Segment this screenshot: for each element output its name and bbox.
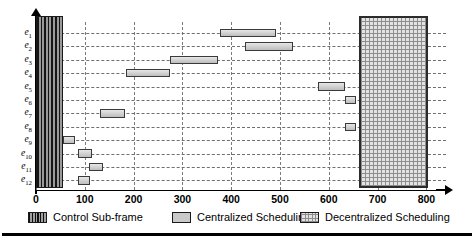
y-tick-subscript: 6 — [29, 99, 32, 106]
y-tick-label-e5: e5 — [24, 81, 32, 93]
task-bar-e11 — [89, 163, 103, 172]
chart-legend: Control Sub-frameCentralized SchedulingD… — [0, 207, 476, 227]
y-tick-subscript: 4 — [29, 72, 32, 79]
legend-label-dec: Decentralized Scheduling — [325, 211, 450, 223]
y-tick-subscript: 3 — [29, 59, 32, 66]
legend-item-cent: Centralized Scheduling — [172, 211, 310, 223]
task-bar-e2 — [245, 42, 293, 51]
task-bar-e3 — [170, 56, 218, 65]
legend-swatch-cent — [172, 212, 191, 223]
task-bar-e4 — [126, 69, 170, 78]
x-tick-label-0: 0 — [33, 193, 39, 205]
y-tick-subscript: 9 — [29, 139, 32, 146]
y-tick-label-e10: e10 — [21, 148, 32, 160]
x-tick-label-700: 700 — [369, 193, 387, 205]
legend-swatch-dec — [300, 212, 319, 223]
task-bar-e5 — [318, 82, 345, 91]
y-tick-subscript: 7 — [29, 112, 32, 119]
y-tick-label-e4: e4 — [24, 67, 32, 79]
legend-item-dec: Decentralized Scheduling — [300, 211, 450, 223]
task-bar-e9 — [63, 136, 75, 145]
plot-area — [36, 22, 436, 190]
y-tick-subscript: 1 — [29, 32, 32, 39]
x-axis-arrowhead-icon — [445, 185, 453, 195]
legend-label-ctrl: Control Sub-frame — [53, 211, 143, 223]
x-tick-label-400: 400 — [222, 193, 240, 205]
legend-swatch-ctrl — [28, 212, 47, 223]
y-tick-subscript: 8 — [29, 126, 32, 133]
task-bar-e6 — [345, 96, 355, 105]
legend-item-ctrl: Control Sub-frame — [28, 211, 143, 223]
legend-label-cent: Centralized Scheduling — [197, 211, 310, 223]
x-tick-label-300: 300 — [174, 193, 192, 205]
gantt-chart-figure: e1e2e3e4e5e6e7e8e9e10e11e12 010020030040… — [0, 0, 476, 243]
task-bar-e12 — [78, 176, 90, 185]
y-tick-label-e1: e1 — [24, 27, 32, 39]
x-tick-label-200: 200 — [125, 193, 143, 205]
x-tick-label-800: 800 — [418, 193, 436, 205]
x-tick-label-600: 600 — [320, 193, 338, 205]
control-subframe-block — [36, 16, 63, 188]
y-tick-label-e11: e11 — [21, 161, 32, 173]
task-bar-e10 — [78, 149, 92, 158]
decentralized-scheduling-block — [359, 16, 429, 188]
y-tick-label-e7: e7 — [24, 107, 32, 119]
y-tick-subscript: 12 — [25, 179, 32, 186]
y-tick-subscript: 5 — [29, 86, 32, 93]
y-tick-label-e6: e6 — [24, 94, 32, 106]
x-tick-label-100: 100 — [76, 193, 94, 205]
y-tick-label-e9: e9 — [24, 134, 32, 146]
y-tick-label-e12: e12 — [21, 174, 32, 186]
y-tick-subscript: 2 — [29, 45, 32, 52]
task-bar-e1 — [220, 29, 276, 38]
y-axis-arrowhead-icon — [31, 8, 41, 16]
figure-bottom-rule — [2, 233, 472, 236]
y-tick-label-e3: e3 — [24, 54, 32, 66]
x-tick-label-500: 500 — [271, 193, 289, 205]
y-tick-subscript: 10 — [25, 153, 32, 160]
y-tick-subscript: 11 — [25, 166, 32, 173]
task-bar-e7 — [100, 109, 125, 118]
y-tick-label-e8: e8 — [24, 121, 32, 133]
y-tick-label-e2: e2 — [24, 40, 32, 52]
task-bar-e8 — [345, 123, 355, 132]
